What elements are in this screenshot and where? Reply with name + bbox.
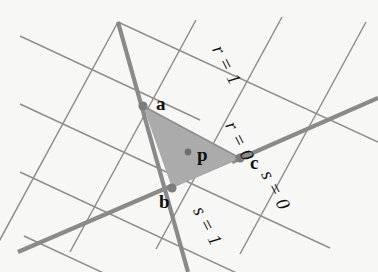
point-dot-p xyxy=(185,149,192,156)
figure-canvas: a b c p r = 1 r = 0 s = 0 s = 1 xyxy=(0,0,378,272)
triangle-abc xyxy=(143,106,240,188)
grid-line-r-4 xyxy=(20,172,258,272)
grid-line-s-1 xyxy=(0,22,118,258)
vertex-dot-a xyxy=(138,101,147,110)
point-label-p: p xyxy=(197,145,208,164)
coordinate-grid-svg xyxy=(0,0,378,272)
grid-line-s-4 xyxy=(240,22,366,254)
triangle-fill xyxy=(143,106,240,188)
vertex-label-a: a xyxy=(156,94,166,113)
grid-line-r-1 xyxy=(20,36,200,120)
vertex-label-b: b xyxy=(159,192,170,211)
